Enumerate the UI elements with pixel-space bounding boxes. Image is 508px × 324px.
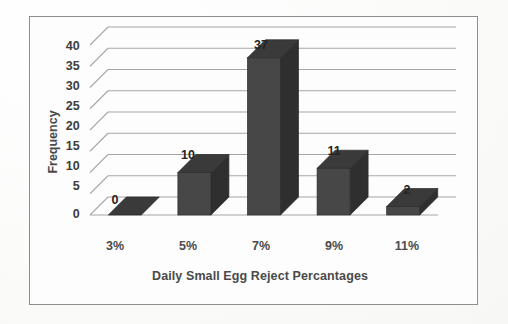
gridline-depth [90,70,108,88]
bar-5pct[interactable] [178,155,229,216]
x-tick-label: 5% [158,239,218,253]
x-tick-label: 3% [85,239,145,253]
x-tick-label: 7% [231,239,291,253]
chart-frame: 40 35 30 25 20 15 10 5 0 3% 5% 7% 9% 11%… [29,16,478,305]
bar-side-face [281,40,299,215]
y-tick-label: 0 [52,207,80,221]
gridline-depth [90,176,108,194]
x-tick-label: 11% [377,239,437,253]
bar-front-face [317,168,350,215]
bar-value-label: 11 [309,144,359,158]
x-axis-title: Daily Small Egg Reject Percantages [70,269,450,283]
bar-value-label: 2 [382,183,432,197]
gridline-depth [90,48,108,66]
bar-7pct[interactable] [248,40,299,215]
gridline-depth [90,133,108,151]
chart-canvas [30,17,479,306]
bar-value-label: 10 [163,148,213,162]
bar-value-label: 0 [90,193,140,207]
bar-value-label: 37 [236,38,286,52]
y-axis-title: Frequency [46,90,60,194]
bar-front-face [248,58,281,215]
bar-front-face [178,173,211,216]
bar-front-face [387,207,420,216]
gridline-depth [90,91,108,109]
x-tick-label: 9% [304,239,364,253]
gridline-depth [90,112,108,130]
gridline-depth [90,155,108,173]
y-tick-label: 40 [52,39,80,53]
plot-area: 40 35 30 25 20 15 10 5 0 3% 5% 7% 9% 11%… [30,17,479,306]
y-tick-label: 35 [52,59,80,73]
gridline-depth [90,27,108,45]
bar-9pct[interactable] [317,150,368,215]
